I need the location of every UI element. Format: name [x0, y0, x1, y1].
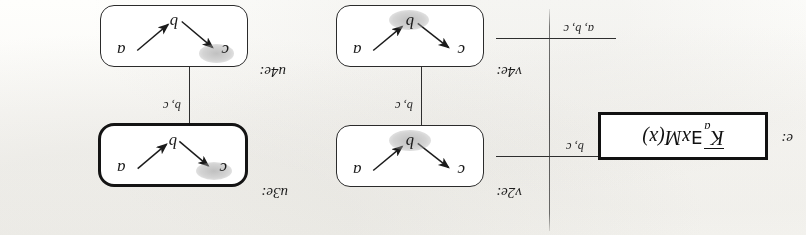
- edge-label-top: a, b, c: [563, 21, 594, 36]
- world-v2e-atom-c: c: [457, 160, 465, 180]
- panel-divider: [549, 9, 550, 231]
- formula-box[interactable]: Ka∃xM(x): [598, 112, 768, 160]
- world-u4e-atom-c: c: [221, 40, 229, 60]
- world-u3e-label: u3e:: [261, 184, 288, 201]
- formula-argument: (x): [642, 127, 665, 149]
- formula-variable: x: [682, 127, 691, 149]
- figure-canvas: a, b, c b, c b, c b, c a c b u4e:: [0, 0, 806, 235]
- world-u4e-label: u4e:: [259, 63, 286, 80]
- world-u3e-atom-a: a: [117, 158, 126, 178]
- world-u3e-atom-c: c: [219, 158, 227, 178]
- world-v2e[interactable]: a c b: [336, 125, 484, 187]
- world-v4e-atom-c: c: [457, 40, 465, 60]
- formula-predicate: M: [665, 127, 682, 149]
- formula-text: Ka∃xM(x): [642, 123, 724, 149]
- edge-line-top: [496, 38, 616, 39]
- world-u4e-atom-a: a: [117, 40, 126, 60]
- edge-line-left: [189, 65, 190, 127]
- world-v2e-atom-b: b: [406, 132, 415, 152]
- edge-line-right: [421, 65, 422, 127]
- edge-label-right: b, c: [395, 98, 413, 113]
- world-v2e-atom-a: a: [353, 160, 362, 180]
- world-v2e-label: v2e:: [496, 184, 522, 201]
- world-u3e-atom-b: b: [169, 132, 178, 152]
- world-v4e-label: v4e:: [496, 63, 522, 80]
- formula-operator: Ka: [704, 123, 724, 149]
- formula-label: e:: [781, 130, 793, 147]
- formula-quantifier: ∃: [691, 127, 704, 147]
- world-u4e-atom-b: b: [170, 12, 179, 32]
- world-u4e[interactable]: a c b: [100, 5, 248, 67]
- world-v4e-atom-b: b: [406, 12, 415, 32]
- world-v4e-atom-a: a: [353, 40, 362, 60]
- world-u3e[interactable]: a c b: [98, 123, 248, 187]
- world-v4e[interactable]: a c b: [336, 5, 484, 67]
- edge-label-bottom: b, c: [566, 139, 584, 154]
- edge-label-left: b, c: [163, 98, 181, 113]
